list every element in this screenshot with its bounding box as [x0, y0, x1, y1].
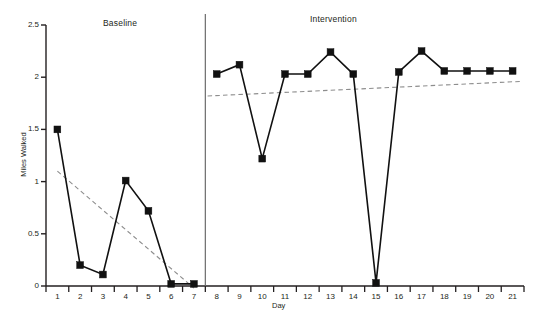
- y-tick-label: 0: [15, 281, 39, 290]
- x-tick-label: 4: [118, 292, 134, 301]
- x-tick-label: 6: [163, 292, 179, 301]
- y-tick-label: 1: [15, 177, 39, 186]
- x-tick-label: 21: [505, 292, 521, 301]
- x-tick-label: 14: [345, 292, 361, 301]
- y-tick-label: 1.5: [15, 124, 39, 133]
- x-tick-label: 5: [140, 292, 156, 301]
- x-tick-label: 8: [209, 292, 225, 301]
- x-tick-label: 3: [95, 292, 111, 301]
- x-tick-label: 19: [459, 292, 475, 301]
- x-tick-label: 18: [436, 292, 452, 301]
- chart-plot-area: [0, 0, 538, 321]
- x-tick-label: 10: [254, 292, 270, 301]
- x-tick-label: 20: [482, 292, 498, 301]
- data-point-markers: [54, 48, 516, 288]
- y-axis-ticks: [41, 25, 46, 286]
- phase-label-intervention: Intervention: [310, 14, 357, 24]
- axis-lines: [46, 25, 524, 286]
- x-tick-label: 2: [72, 292, 88, 301]
- x-tick-label: 9: [231, 292, 247, 301]
- phase-label-baseline: Baseline: [103, 18, 137, 28]
- x-tick-label: 13: [323, 292, 339, 301]
- x-tick-label: 15: [368, 292, 384, 301]
- x-axis-title: Day: [272, 301, 285, 310]
- y-tick-label: 2.5: [15, 20, 39, 29]
- y-tick-label: 2: [15, 72, 39, 81]
- x-tick-label: 12: [300, 292, 316, 301]
- chart-container: Baseline Intervention Miles Walked Day 0…: [0, 0, 538, 321]
- x-tick-label: 7: [186, 292, 202, 301]
- trendlines: [57, 81, 521, 288]
- x-tick-label: 11: [277, 292, 293, 301]
- x-tick-label: 1: [49, 292, 65, 301]
- y-tick-label: 0.5: [15, 229, 39, 238]
- x-tick-label: 16: [391, 292, 407, 301]
- data-series: [57, 51, 512, 284]
- x-tick-label: 17: [414, 292, 430, 301]
